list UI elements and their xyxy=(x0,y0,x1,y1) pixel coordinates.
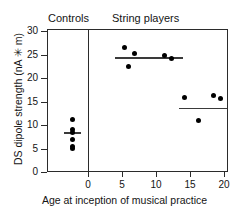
x-axis-tick xyxy=(122,172,123,177)
x-axis-tick-label: 15 xyxy=(180,179,200,190)
y-axis-tick xyxy=(41,102,47,103)
data-point xyxy=(70,137,75,142)
x-axis-tick xyxy=(88,172,89,177)
x-axis-tick xyxy=(156,172,157,177)
y-axis-tick xyxy=(41,31,47,32)
group-title-controls: Controls xyxy=(48,12,89,24)
y-axis-tick xyxy=(41,78,47,79)
x-axis-tick-label: 20 xyxy=(214,179,234,190)
x-axis-tick xyxy=(190,172,191,177)
data-point xyxy=(126,64,131,69)
plot-area xyxy=(47,29,228,172)
data-point xyxy=(169,56,174,61)
scatter-plot-figure: Controls String players 051015202530 051… xyxy=(0,0,249,213)
group-title-string-players: String players xyxy=(112,12,179,24)
y-axis-tick xyxy=(41,55,47,56)
y-axis-tick xyxy=(41,172,47,173)
y-axis-tick xyxy=(41,149,47,150)
x-axis-tick-label: 10 xyxy=(146,179,166,190)
y-axis-tick xyxy=(41,125,47,126)
data-point xyxy=(70,117,75,122)
x-axis-title: Age at inception of musical practice xyxy=(0,194,249,206)
x-axis-tick-label: 5 xyxy=(112,179,132,190)
data-point xyxy=(182,95,187,100)
group-divider-line xyxy=(88,29,89,172)
x-axis-tick-label: 0 xyxy=(78,179,98,190)
mean-line xyxy=(179,108,227,110)
x-axis-tick xyxy=(224,172,225,177)
y-axis-title: DS dipole strength (nA ✳ m) xyxy=(12,24,24,174)
